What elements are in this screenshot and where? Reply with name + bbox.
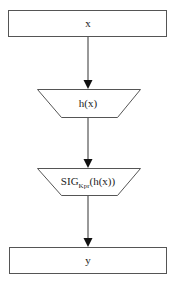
node-input: x xyxy=(9,11,167,37)
node-output: y xyxy=(10,248,167,274)
node-output-label: y xyxy=(85,254,91,266)
node-hash-label: h(x) xyxy=(79,97,98,110)
edge-input-to-hash xyxy=(84,36,93,89)
flowchart: x h(x) SIGKpr(h(x)) y xyxy=(0,0,176,282)
edge-hash-to-sign xyxy=(84,117,93,168)
node-hash: h(x) xyxy=(38,90,141,118)
node-sign: SIGKpr(h(x)) xyxy=(38,169,141,196)
node-input-label: x xyxy=(85,17,91,29)
edge-sign-to-output xyxy=(84,195,93,247)
